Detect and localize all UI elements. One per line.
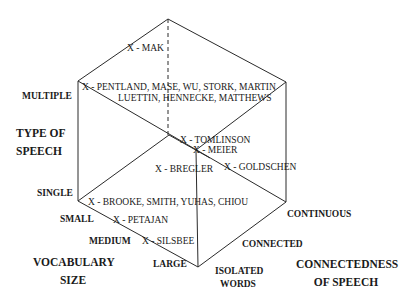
point-mak: X - MAK: [127, 44, 164, 54]
tick-words: WORDS: [220, 280, 256, 290]
point-goldschen: X - GOLDSCHEN: [224, 163, 296, 173]
cube-diagram: X - MAK X - PENTLAND, MASE, WU, STORK, M…: [0, 0, 402, 305]
tick-multiple: MULTIPLE: [22, 92, 72, 102]
axis-title-line2: SIZE: [33, 272, 113, 290]
axis-title-type-of-speech: TYPE OF SPEECH: [16, 125, 66, 161]
axis-title-line2: OF SPEECH: [296, 274, 396, 292]
tick-connected: CONNECTED: [242, 240, 303, 250]
tick-single: SINGLE: [37, 189, 73, 199]
tick-small: SMALL: [60, 215, 94, 225]
axis-title-line1: TYPE OF: [16, 125, 66, 143]
point-meier: X - MEIER: [193, 146, 237, 156]
point-silsbee: X - SILSBEE: [142, 237, 194, 247]
tick-isolated: ISOLATED: [215, 267, 263, 277]
axis-title-line2: SPEECH: [16, 143, 66, 161]
axis-title-line1: CONNECTEDNESS: [296, 256, 396, 274]
axis-title-line1: VOCABULARY: [33, 254, 113, 272]
axis-title-vocabulary-size: VOCABULARY SIZE: [33, 254, 113, 290]
axis-title-connectedness: CONNECTEDNESS OF SPEECH: [296, 256, 396, 292]
tick-continuous: CONTINUOUS: [287, 210, 351, 220]
edge-connectedness-axis: [198, 202, 286, 267]
point-pentland-group-line2: LUETTIN, HENNECKE, MATTHEWS: [118, 94, 272, 104]
tick-large: LARGE: [153, 260, 187, 270]
point-bregler: X - BREGLER: [155, 165, 213, 175]
point-petajan: X - PETAJAN: [113, 216, 168, 226]
tick-medium: MEDIUM: [89, 237, 131, 247]
point-pentland-group: X - PENTLAND, MASE, WU, STORK, MARTIN: [82, 83, 276, 93]
point-brooke-group: X - BROOKE, SMITH, YUHAS, CHIOU: [88, 198, 248, 208]
edge-top-right: [168, 19, 286, 82]
